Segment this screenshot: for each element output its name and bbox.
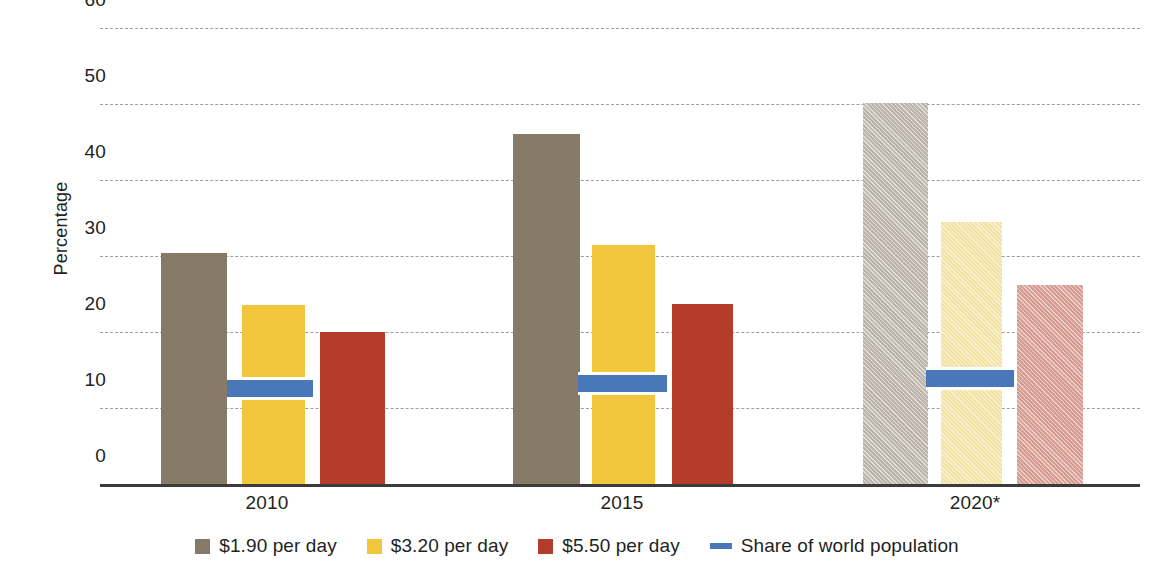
legend-label-550: $5.50 per day [562, 535, 680, 557]
share-line-2010 [227, 377, 313, 400]
legend-label-share: Share of world population [741, 535, 959, 557]
x-axis-label-2020: 2020* [875, 492, 1075, 514]
legend-label-320: $3.20 per day [391, 535, 509, 557]
bar-2020-550 [1017, 285, 1083, 484]
legend-item-190[interactable]: $1.90 per day [195, 535, 337, 557]
y-axis-tick-50: 50 [46, 65, 106, 87]
legend-swatch-icon-190 [195, 539, 210, 554]
chart-legend: $1.90 per day $3.20 per day $5.50 per da… [0, 535, 1154, 557]
y-axis-tick-40: 40 [46, 141, 106, 163]
bar-group-2020 [863, 28, 1103, 484]
bar-2010-190 [161, 253, 227, 484]
chart-figure: Percentage 60 50 40 30 20 10 0 [0, 0, 1154, 569]
bar-2010-550 [320, 332, 385, 484]
axis-baseline [100, 484, 1140, 487]
x-axis-label-2010: 2010 [167, 492, 367, 514]
legend-item-550[interactable]: $5.50 per day [538, 535, 680, 557]
bar-2020-190 [863, 103, 928, 484]
x-axis-label-2015: 2015 [522, 492, 722, 514]
share-line-2015 [578, 372, 667, 395]
bar-2015-320 [592, 245, 655, 484]
legend-swatch-icon-320 [367, 539, 382, 554]
bar-2015-550 [672, 304, 733, 484]
bar-group-2015 [513, 28, 753, 484]
bar-2020-320 [941, 222, 1002, 484]
bar-2015-190 [513, 134, 580, 484]
y-axis-tick-20: 20 [46, 293, 106, 315]
y-axis-tick-60: 60 [46, 0, 106, 11]
y-axis-tick-0: 0 [46, 445, 106, 467]
y-axis-tick-30: 30 [46, 217, 106, 239]
legend-item-320[interactable]: $3.20 per day [367, 535, 509, 557]
y-axis-tick-10: 10 [46, 369, 106, 391]
legend-line-icon-share [710, 543, 732, 549]
share-line-2020 [926, 367, 1014, 390]
legend-item-share[interactable]: Share of world population [710, 535, 959, 557]
legend-label-190: $1.90 per day [219, 535, 337, 557]
plot-area [100, 28, 1140, 484]
legend-swatch-icon-550 [538, 539, 553, 554]
bar-group-2010 [161, 28, 401, 484]
